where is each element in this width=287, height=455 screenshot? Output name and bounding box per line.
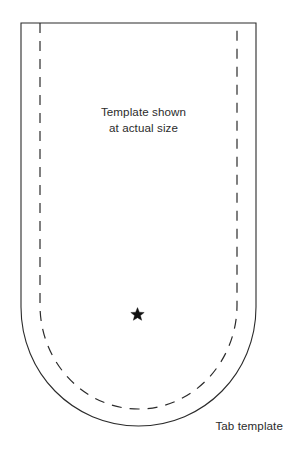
template-outline-drawing xyxy=(0,0,287,455)
tab-template-figure: Template shown at actual size Tab templa… xyxy=(0,0,287,455)
instruction-line-2: at actual size xyxy=(0,120,287,136)
instruction-line-1: Template shown xyxy=(0,104,287,120)
outer-cut-line xyxy=(21,23,256,426)
instruction-text: Template shown at actual size xyxy=(0,104,287,135)
figure-caption: Tab template xyxy=(215,418,283,433)
